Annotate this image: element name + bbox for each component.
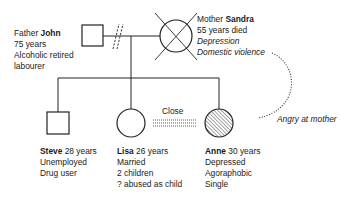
- father-name: John: [41, 28, 61, 38]
- father-role: Father: [14, 28, 38, 38]
- anne-name: Anne: [205, 146, 226, 156]
- steve-note-1: Unemployed: [40, 157, 97, 168]
- conflict-curve: [258, 53, 292, 118]
- father-note-1: Alcoholic retired: [14, 50, 74, 61]
- lisa-note-2: 2 children: [117, 168, 182, 179]
- father-symbol: [82, 25, 103, 46]
- lisa-note-1: Married: [117, 157, 182, 168]
- father-note-2: labourer: [14, 61, 74, 72]
- steve-age: 28 years: [65, 146, 97, 156]
- father-label: Father John 75 years Alcoholic retired l…: [14, 28, 74, 72]
- steve-symbol: [47, 112, 69, 134]
- mother-role: Mother: [197, 14, 223, 24]
- lisa-age: 26 years: [136, 146, 168, 156]
- mother-label: Mother Sandra 55 years died Depression D…: [197, 14, 265, 58]
- close-label: Close: [162, 106, 183, 117]
- anne-age: 30 years: [228, 146, 260, 156]
- anne-note-1: Depressed: [205, 157, 260, 168]
- lisa-symbol: [117, 109, 145, 137]
- anne-note-3: Single: [205, 179, 260, 190]
- steve-name: Steve: [40, 146, 62, 156]
- close-relationship-line: [153, 120, 197, 126]
- lisa-label: Lisa 26 years Married 2 children ? abuse…: [117, 146, 182, 190]
- lisa-name: Lisa: [117, 146, 134, 156]
- steve-label: Steve 28 years Unemployed Drug user: [40, 146, 97, 179]
- conflict-label: Angry at mother: [277, 114, 337, 125]
- mother-note-1: Depression: [197, 36, 265, 47]
- mother-name: Sandra: [225, 14, 253, 24]
- father-age: 75 years: [14, 39, 74, 50]
- mother-age: 55 years died: [197, 25, 265, 36]
- anne-label: Anne 30 years Depressed Agoraphobic Sing…: [205, 146, 260, 190]
- anne-symbol: [205, 109, 233, 137]
- lisa-note-3: ? abused as child: [117, 179, 182, 190]
- anne-note-2: Agoraphobic: [205, 168, 260, 179]
- steve-note-2: Drug user: [40, 168, 97, 179]
- mother-note-2: Domestic violence: [197, 47, 265, 58]
